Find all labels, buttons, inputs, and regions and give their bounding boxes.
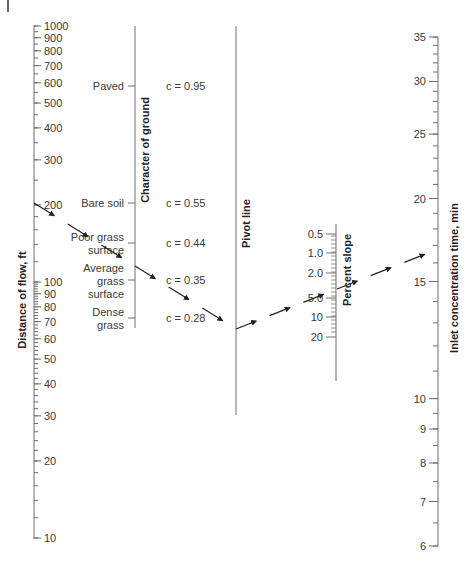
runoff-coefficient: c = 0.55 bbox=[166, 197, 205, 209]
ground-category-label: Average bbox=[83, 262, 124, 274]
distance-tick-label: 500 bbox=[44, 97, 62, 109]
distance-tick-label: 50 bbox=[44, 353, 56, 365]
time-tick-label: 6 bbox=[420, 540, 426, 552]
distance-tick-label: 200 bbox=[44, 199, 62, 211]
distance-tick-label: 800 bbox=[44, 45, 62, 57]
time-tick-label: 9 bbox=[420, 423, 426, 435]
time-tick-label: 15 bbox=[414, 276, 426, 288]
time-tick-label: 20 bbox=[414, 193, 426, 205]
runoff-coefficient: c = 0.95 bbox=[166, 80, 205, 92]
distance-axis: 1000900800700600500400300200100908070605… bbox=[16, 20, 68, 544]
pivot-axis-title: Pivot line bbox=[240, 199, 252, 248]
distance-tick-label: 70 bbox=[44, 316, 56, 328]
ground-category-label: Poor grass bbox=[71, 231, 125, 243]
ground-category-label: grass bbox=[97, 319, 124, 331]
ground-category-label: surface bbox=[88, 288, 124, 300]
time-axis: 3530252015109876 Inlet concentration tim… bbox=[414, 31, 460, 552]
ground-category-label: Dense bbox=[92, 306, 124, 318]
slope-tick-label: 10 bbox=[311, 311, 323, 323]
time-tick-label: 35 bbox=[414, 31, 426, 43]
distance-tick-label: 1000 bbox=[44, 20, 68, 32]
distance-tick-label: 300 bbox=[44, 154, 62, 166]
distance-ticks: 1000900800700600500400300200100908070605… bbox=[34, 20, 68, 544]
slope-tick-label: 1.0 bbox=[308, 247, 323, 259]
ground-category-label: Paved bbox=[93, 80, 124, 92]
ground-category-label: grass bbox=[97, 275, 124, 287]
distance-tick-label: 900 bbox=[44, 32, 62, 44]
slope-tick-label: 0.5 bbox=[308, 228, 323, 240]
distance-tick-label: 80 bbox=[44, 301, 56, 313]
slope-tick-label: 2.0 bbox=[308, 267, 323, 279]
distance-tick-label: 600 bbox=[44, 77, 62, 89]
time-tick-label: 30 bbox=[414, 75, 426, 87]
distance-axis-title: Distance of flow, ft bbox=[16, 251, 28, 349]
distance-tick-label: 700 bbox=[44, 60, 62, 72]
distance-tick-label: 10 bbox=[44, 532, 56, 544]
ground-axis-title: Character of ground bbox=[139, 97, 151, 203]
ground-axis: Character of ground Pavedc = 0.95Bare so… bbox=[71, 26, 206, 331]
distance-tick-label: 40 bbox=[44, 378, 56, 390]
distance-tick-label: 400 bbox=[44, 122, 62, 134]
runoff-coefficient: c = 0.35 bbox=[166, 274, 205, 286]
pivot-axis: Pivot line bbox=[236, 26, 252, 415]
time-tick-label: 7 bbox=[420, 496, 426, 508]
distance-tick-label: 20 bbox=[44, 455, 56, 467]
time-tick-label: 25 bbox=[414, 128, 426, 140]
time-tick-label: 8 bbox=[420, 457, 426, 469]
nomograph: 1000900800700600500400300200100908070605… bbox=[0, 0, 472, 563]
slope-axis-title: Percent slope bbox=[341, 234, 353, 306]
slope-axis: 0.51.02.05.01020 Percent slope bbox=[308, 224, 353, 381]
distance-tick-label: 100 bbox=[44, 276, 62, 288]
time-ticks: 3530252015109876 bbox=[414, 31, 438, 552]
time-tick-label: 10 bbox=[414, 393, 426, 405]
distance-tick-label: 60 bbox=[44, 333, 56, 345]
distance-tick-label: 90 bbox=[44, 288, 56, 300]
slope-ticks: 0.51.02.05.01020 bbox=[308, 228, 336, 343]
ground-category-label: Bare soil bbox=[81, 197, 124, 209]
runoff-coefficient: c = 0.44 bbox=[166, 237, 205, 249]
ground-category-label: surface bbox=[88, 244, 124, 256]
slope-tick-label: 20 bbox=[311, 331, 323, 343]
runoff-coefficient: c = 0.28 bbox=[166, 312, 205, 324]
time-axis-title: Inlet concentration time, min bbox=[448, 203, 460, 353]
distance-tick-label: 30 bbox=[44, 410, 56, 422]
